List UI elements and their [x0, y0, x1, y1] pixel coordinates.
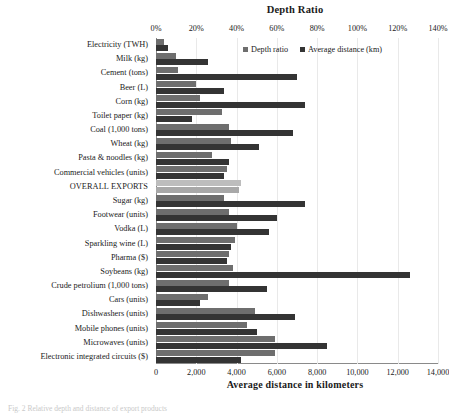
category-label: Corn (kg): [116, 97, 149, 107]
bottom-axis-ticks: 02,0004,0006,0008,00010,00012,00014,000: [0, 366, 448, 379]
category-label: Footwear (units): [93, 210, 148, 220]
bar-depth-ratio: [156, 180, 241, 186]
category-label: Cars (units): [109, 295, 148, 305]
axis-tick-label: 140%: [428, 22, 447, 35]
bar-depth-ratio: [156, 195, 224, 201]
bar-average-distance: [156, 201, 305, 207]
chart-bar-group: [156, 308, 438, 322]
axis-tick-label: 12,000: [386, 366, 409, 379]
category-label: Crude petrolium (1,000 tons): [51, 281, 148, 291]
bar-depth-ratio: [156, 166, 227, 172]
chart-bar-group: [156, 237, 438, 251]
legend-item-depth-ratio: Depth ratio: [243, 45, 288, 54]
bar-average-distance: [156, 314, 295, 320]
bar-average-distance: [156, 244, 231, 250]
axis-tick-label: 100%: [348, 22, 367, 35]
category-label: Sparkling wine (L): [85, 239, 148, 249]
chart-bar-group: [156, 166, 438, 180]
chart-bar-group: [156, 138, 438, 152]
chart-bar-group: [156, 124, 438, 138]
axis-tick-label: 0%: [151, 22, 162, 35]
bar-depth-ratio: [156, 138, 231, 144]
chart-bar-group: [156, 265, 438, 279]
axis-tick-label: 6,000: [268, 366, 286, 379]
category-label: Coal (1,000 tons): [90, 125, 148, 135]
axis-tick-label: 60%: [269, 22, 284, 35]
axis-tick-label: 10,000: [346, 366, 369, 379]
category-label: Soybeans (kg): [100, 267, 148, 277]
axis-tick-label: 8,000: [308, 366, 326, 379]
category-label: Microwaves (units): [83, 338, 148, 348]
chart-bar-group: [156, 336, 438, 350]
category-label: OVERALL EXPORTS: [70, 182, 148, 192]
chart-bar-group: [156, 95, 438, 109]
bar-average-distance: [156, 159, 229, 165]
chart-bar-group: [156, 209, 438, 223]
category-label: Cement (tons): [101, 68, 148, 78]
bottom-axis-title: Average distance in kilometers: [150, 379, 440, 390]
chart-bar-group: [156, 280, 438, 294]
chart-legend: Depth ratio Average distance (km): [243, 45, 382, 54]
bar-average-distance: [156, 130, 293, 136]
bar-depth-ratio: [156, 124, 229, 130]
category-label: Milk (kg): [116, 54, 148, 64]
axis-tick-label: 14,000: [427, 366, 449, 379]
bar-average-distance: [156, 357, 241, 363]
chart-bar-group: [156, 109, 438, 123]
chart-bar-group: [156, 195, 438, 209]
legend-label-average-distance: Average distance (km): [308, 45, 382, 54]
plot-area: [156, 38, 438, 364]
bar-average-distance: [156, 229, 269, 235]
bar-depth-ratio: [156, 209, 229, 215]
bar-average-distance: [156, 45, 168, 51]
bar-average-distance: [156, 215, 277, 221]
gridline: [438, 38, 439, 364]
axis-tick-label: 0: [154, 366, 158, 379]
category-label: Pharma ($): [111, 253, 148, 263]
bar-depth-ratio: [156, 81, 196, 87]
legend-label-depth-ratio: Depth ratio: [251, 45, 288, 54]
bar-depth-ratio: [156, 109, 222, 115]
bar-depth-ratio: [156, 350, 275, 356]
bar-depth-ratio: [156, 251, 229, 257]
bar-depth-ratio: [156, 308, 255, 314]
axis-tick-label: 2,000: [187, 366, 205, 379]
chart-bar-group: [156, 322, 438, 336]
category-label: Mobile phones (units): [75, 324, 148, 334]
axis-tick-label: 80%: [310, 22, 325, 35]
category-axis-labels: Electricity (TWH)Milk (kg)Cement (tons)B…: [0, 38, 152, 364]
category-label: Vodka (L): [114, 224, 148, 234]
chart-bar-group: [156, 67, 438, 81]
axis-tick-label: 40%: [229, 22, 244, 35]
bar-depth-ratio: [156, 67, 178, 73]
figure-caption: Fig. 2 Relative depth and distance of ex…: [8, 404, 167, 413]
bar-average-distance: [156, 272, 410, 278]
category-label: Electricity (TWH): [87, 40, 148, 50]
bar-average-distance: [156, 286, 267, 292]
bar-average-distance: [156, 329, 257, 335]
bar-average-distance: [156, 88, 224, 94]
chart-title: Depth Ratio: [150, 4, 440, 15]
bar-average-distance: [156, 74, 297, 80]
chart-bar-group: [156, 81, 438, 95]
bar-average-distance: [156, 187, 239, 193]
bar-depth-ratio: [156, 322, 247, 328]
category-label: Pasta & noodles (kg): [78, 153, 148, 163]
legend-item-average-distance: Average distance (km): [300, 45, 382, 54]
category-label: Beer (L): [120, 83, 148, 93]
bar-depth-ratio: [156, 95, 200, 101]
category-label: Dishwashers (units): [82, 309, 148, 319]
category-label: Wheat (kg): [110, 139, 148, 149]
chart-bar-group: [156, 180, 438, 194]
category-label: Electronic integrated circuits ($): [40, 352, 148, 362]
bar-average-distance: [156, 102, 305, 108]
bar-average-distance: [156, 173, 224, 179]
category-label: Commercial vehicles (units): [54, 168, 148, 178]
chart-bar-group: [156, 251, 438, 265]
bar-average-distance: [156, 144, 259, 150]
chart-bar-group: [156, 294, 438, 308]
bar-depth-ratio: [156, 152, 212, 158]
chart-bar-group: [156, 53, 438, 67]
chart-bar-group: [156, 223, 438, 237]
